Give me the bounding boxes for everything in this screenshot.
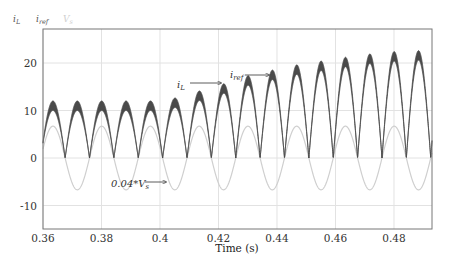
line-chart: iLirefVs 20100-10 0.360.380.40.420.440.4… (0, 0, 450, 266)
legend-entry-v-s: Vs (63, 14, 74, 26)
x-tick-label: 0.46 (324, 232, 348, 244)
x-tick-label: 0.4 (152, 232, 169, 244)
x-tick-label: 0.38 (90, 232, 113, 244)
y-axis-ticks: 20100-10 (20, 57, 37, 212)
x-tick-label: 0.36 (31, 232, 55, 244)
y-tick-label: 0 (30, 152, 37, 164)
legend-entry-i-ref: iref (36, 14, 50, 26)
annotation-il: iL (177, 79, 185, 92)
y-tick-label: -10 (20, 200, 37, 212)
legend-entry-i-l: iL (13, 14, 20, 26)
y-tick-label: 20 (24, 57, 37, 69)
x-tick-label: 0.48 (382, 232, 405, 244)
legend: iLirefVs (13, 14, 74, 26)
y-tick-label: 10 (24, 105, 37, 117)
annotation-vs: 0.04*Vs (111, 178, 150, 191)
x-tick-label: 0.44 (265, 232, 289, 244)
x-axis-label: Time (s) (215, 242, 258, 254)
annotation-iref: iref (230, 69, 245, 82)
grid (43, 29, 432, 229)
